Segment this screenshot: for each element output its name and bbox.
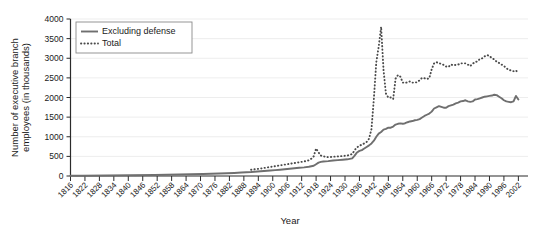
y-tick-label: 3500 [45, 34, 64, 44]
x-axis-title: Year [280, 215, 299, 226]
y-tick-label: 4000 [45, 14, 64, 24]
y-axis-title-line1: Number of executive branch [9, 38, 20, 157]
y-tick-label: 500 [49, 151, 63, 161]
y-tick-label: 0 [59, 171, 64, 181]
legend-label-excluding-defense: Excluding defense [102, 26, 176, 36]
chart-legend: Excluding defense Total [76, 22, 192, 53]
y-axis-title-line2: employees (in thousands) [20, 43, 31, 152]
y-tick-label: 1000 [45, 132, 64, 142]
chart-figure: 05001000150020002500300035004000 1816182… [0, 0, 534, 233]
line-chart: 05001000150020002500300035004000 1816182… [0, 0, 534, 233]
y-tick-label: 2500 [45, 73, 64, 83]
y-axis-title: Number of executive branch employees (in… [9, 38, 31, 157]
legend-label-total: Total [102, 38, 121, 48]
y-tick-label: 2000 [45, 93, 64, 103]
y-tick-label: 3000 [45, 53, 64, 63]
y-tick-label: 1500 [45, 112, 64, 122]
